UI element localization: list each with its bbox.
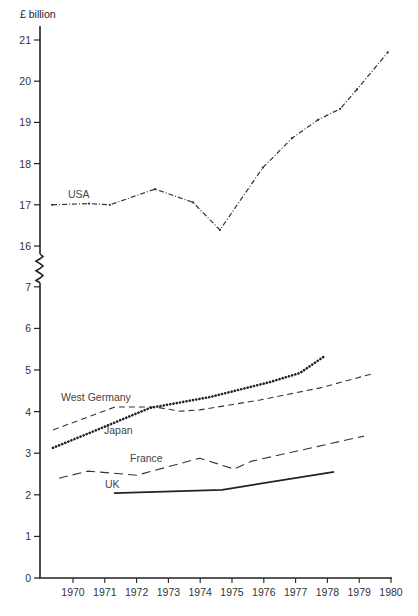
series-label-west-germany: West Germany: [61, 391, 132, 403]
y-tick-label: 2: [25, 489, 31, 501]
data-point-usa: [291, 137, 293, 139]
series-label-usa: USA: [68, 188, 90, 200]
y-tick-label: 0: [25, 572, 31, 584]
x-tick-label: 1977: [284, 586, 308, 598]
y-tick-label: 16: [19, 240, 31, 252]
y-tick-label: 6: [25, 322, 31, 334]
data-point-usa: [356, 88, 358, 90]
y-axis-break: [36, 254, 43, 283]
data-point-usa: [109, 204, 111, 206]
y-tick-label: 4: [25, 406, 31, 418]
data-point-usa: [262, 167, 264, 169]
data-point-usa: [219, 229, 221, 231]
y-tick-label: 1: [25, 530, 31, 542]
series-line-usa: [52, 52, 388, 230]
axes: 0123456716171819202119701971197219731974…: [19, 26, 403, 598]
y-axis-title: £ billion: [20, 8, 56, 20]
x-tick-label: 1975: [220, 586, 244, 598]
y-tick-label: 3: [25, 447, 31, 459]
data-point-usa: [339, 108, 341, 110]
x-tick-label: 1972: [125, 586, 149, 598]
y-tick-label: 17: [19, 199, 31, 211]
y-tick-label: 5: [25, 364, 31, 376]
y-tick-label: 20: [19, 75, 31, 87]
y-tick-label: 18: [19, 158, 31, 170]
series-label-japan: Japan: [104, 424, 133, 436]
series-label-france: France: [130, 452, 163, 464]
x-tick-label: 1978: [316, 586, 340, 598]
x-tick-label: 1973: [157, 586, 181, 598]
x-tick-label: 1976: [252, 586, 276, 598]
series-layer: [51, 51, 389, 493]
y-tick-label: 21: [19, 34, 31, 46]
x-tick-label: 1974: [189, 586, 213, 598]
series-line-france: [59, 436, 364, 478]
x-tick-label: 1970: [61, 586, 85, 598]
data-point-usa: [387, 51, 389, 53]
y-tick-label: 7: [25, 281, 31, 293]
x-tick-label: 1979: [348, 586, 372, 598]
data-point-usa: [154, 188, 156, 190]
x-tick-label: 1980: [379, 586, 403, 598]
data-point-usa: [88, 202, 90, 204]
y-tick-label: 19: [19, 116, 31, 128]
data-point-usa: [317, 119, 319, 121]
labels-layer: £ billion USA West Germany Japan France …: [20, 8, 163, 490]
line-chart: 0123456716171819202119701971197219731974…: [0, 0, 418, 616]
series-label-uk: UK: [105, 478, 120, 490]
x-tick-label: 1971: [93, 586, 117, 598]
series-line-uk: [114, 472, 334, 493]
data-point-usa: [192, 201, 194, 203]
data-point-usa: [51, 204, 53, 206]
